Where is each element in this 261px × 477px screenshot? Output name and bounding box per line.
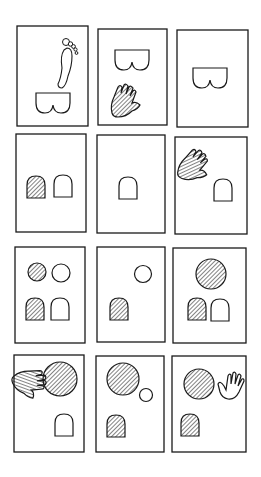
panel-10 xyxy=(10,355,84,452)
open-arch-icon xyxy=(119,177,137,199)
open-arch-icon xyxy=(214,179,232,201)
panel-9 xyxy=(173,248,246,343)
open-arch-icon xyxy=(55,414,73,436)
panel-3 xyxy=(177,30,248,127)
hatched-arch-icon xyxy=(27,176,45,198)
open-arch-icon xyxy=(54,175,72,197)
hatched-large-circle-icon xyxy=(43,362,77,396)
hatched-arch-icon xyxy=(107,415,125,437)
diagram-canvas xyxy=(0,0,261,477)
open-circle-icon xyxy=(140,389,153,402)
panel-8 xyxy=(97,247,165,342)
hatched-arch-icon xyxy=(181,414,199,436)
panel-6 xyxy=(175,137,247,234)
panel-4 xyxy=(16,134,86,232)
open-circle-icon xyxy=(52,264,70,282)
open-circle-icon xyxy=(135,266,152,283)
open-arch-icon xyxy=(211,299,229,321)
hatched-arch-icon xyxy=(110,298,128,320)
open-arch-icon xyxy=(51,298,69,320)
panel-1 xyxy=(17,26,88,126)
hatched-large-circle-icon xyxy=(107,363,139,395)
panel-12 xyxy=(172,356,246,452)
hatched-arch-icon xyxy=(188,298,206,320)
hatched-large-circle-icon xyxy=(196,259,226,289)
panel-2 xyxy=(98,29,167,125)
hatched-large-circle-icon xyxy=(184,369,214,399)
panel-7 xyxy=(15,247,85,343)
hatched-circle-icon xyxy=(28,263,46,281)
panel-11 xyxy=(96,356,164,452)
hatched-arch-icon xyxy=(26,298,44,320)
panel-5 xyxy=(97,135,165,233)
